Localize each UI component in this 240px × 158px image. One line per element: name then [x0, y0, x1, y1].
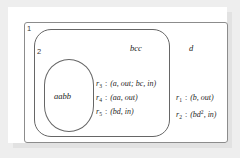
rule-r5-body: (bd, in) — [110, 107, 134, 116]
rule-r1: r1 : (b, out) — [176, 91, 217, 105]
rule-r4-body: (aa, out) — [110, 93, 138, 102]
objects-inner-membrane: aabb — [54, 92, 71, 101]
rule-r4-separator: : — [102, 93, 110, 102]
rule-r3: r3 : (a, out; bc, in) — [96, 77, 156, 91]
membrane-1-label: 1 — [27, 25, 31, 33]
rule-r5: r5 : (bd, in) — [96, 105, 156, 119]
rules-list-membrane-1: r1 : (b, out) r2 : (bd2, in) — [176, 91, 217, 119]
rule-r4: r4 : (aa, out) — [96, 91, 156, 105]
objects-outer-membrane: d — [189, 44, 193, 53]
rule-r1-separator: : — [182, 93, 190, 102]
rule-r2-body-suffix: , in) — [204, 110, 217, 119]
panel-shadow-bottom — [13, 143, 232, 148]
rule-r3-body: (a, out; bc, in) — [110, 79, 156, 88]
rule-r2: r2 : (bd2, in) — [176, 105, 217, 119]
objects-middle-membrane: bcc — [130, 44, 142, 53]
membrane-2-label: 2 — [37, 48, 41, 56]
rules-list-membrane-2: r3 : (a, out; bc, in) r4 : (aa, out) r5 … — [96, 77, 156, 119]
figure-panel: 1 2 aabb bcc d r3 : (a, out; bc, in) r4 … — [8, 7, 227, 143]
figure-canvas: 1 2 aabb bcc d r3 : (a, out; bc, in) r4 … — [0, 0, 240, 158]
rule-r2-body-prefix: (bd — [190, 110, 201, 119]
rule-r1-body: (b, out) — [190, 93, 214, 102]
rule-r2-separator: : — [182, 110, 190, 119]
rule-r5-separator: : — [102, 107, 110, 116]
rule-r3-separator: : — [102, 79, 110, 88]
